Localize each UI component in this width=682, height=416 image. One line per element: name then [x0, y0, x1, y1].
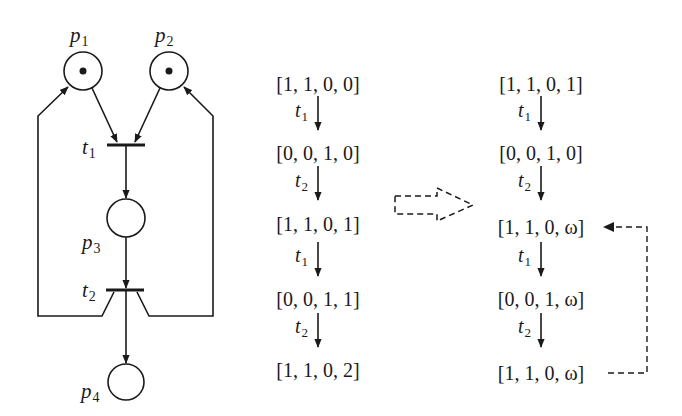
omega-loop-arrow [606, 227, 647, 373]
arc-t2-p2 [137, 87, 213, 316]
label-p4: p4 [81, 381, 100, 405]
arc-p1-t1 [92, 88, 117, 142]
label-p1: p1 [70, 25, 89, 49]
omega-loop-arrowhead-icon [603, 222, 614, 232]
place-p3 [107, 199, 145, 237]
seq-right-marking-4: [0, 0, 1, ω] [498, 289, 584, 309]
token-p2 [166, 68, 173, 75]
label-p3: p3 [82, 232, 101, 256]
seq-left-marking-1: [1, 1, 0, 0] [276, 74, 359, 94]
seq-left-step-1: t1 [295, 100, 308, 123]
place-p4 [108, 364, 144, 400]
seq-right-step-4: t2 [518, 316, 531, 339]
label-t1: t1 [82, 137, 96, 161]
label-p2: p2 [155, 25, 174, 49]
seq-left-marking-3: [1, 1, 0, 1] [276, 214, 359, 234]
diagram-canvas [0, 0, 682, 416]
seq-right-marking-5: [1, 1, 0, ω] [498, 363, 584, 383]
seq-left-step-4: t2 [295, 316, 308, 339]
seq-left-marking-5: [1, 1, 0, 2] [276, 360, 359, 380]
seq-left-step-2: t2 [295, 170, 308, 193]
label-t2: t2 [82, 280, 96, 304]
seq-left-marking-2: [0, 0, 1, 0] [276, 143, 359, 163]
seq-right-step-1: t1 [518, 100, 531, 123]
token-p1 [80, 68, 87, 75]
seq-right-marking-2: [0, 0, 1, 0] [499, 143, 582, 163]
seq-right-step-2: t2 [518, 170, 531, 193]
arc-t2-p1 [38, 87, 114, 316]
seq-right-marking-3: [1, 1, 0, ω] [498, 217, 584, 237]
seq-left-step-3: t1 [295, 245, 308, 268]
arc-p2-t1 [135, 88, 160, 142]
seq-right-step-3: t1 [518, 245, 531, 268]
seq-left-marking-4: [0, 0, 1, 1] [276, 289, 359, 309]
transform-arrow-icon [395, 188, 473, 221]
seq-right-marking-1: [1, 1, 0, 1] [499, 74, 582, 94]
